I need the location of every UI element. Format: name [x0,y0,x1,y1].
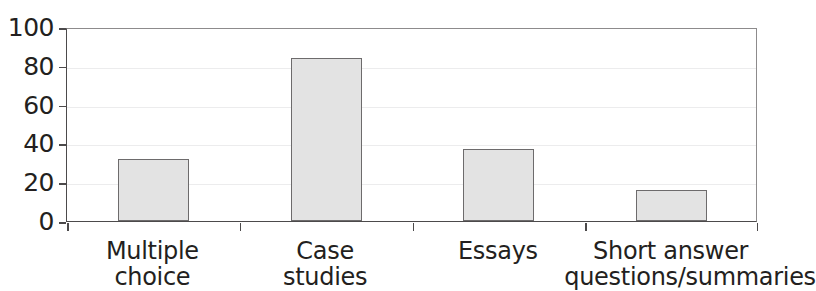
y-tick-mark [59,67,66,69]
x-tick-mark [67,223,69,231]
gridline [67,68,756,69]
y-tick-label: 20 [0,170,54,195]
y-tick-label: 100 [0,15,54,40]
bar[interactable] [636,190,707,221]
y-tick-label: 80 [0,54,54,79]
chart-title [0,0,779,1]
gridline [67,107,756,108]
bar[interactable] [463,149,534,221]
y-tick-mark [59,183,66,185]
y-tick-mark [59,222,66,224]
x-tick-label-line: studies [219,264,432,290]
gridline [67,145,756,146]
bar[interactable] [291,58,362,221]
y-tick-label: 0 [0,209,54,234]
x-tick-mark [240,223,242,231]
x-tick-mark [757,223,759,231]
x-tick-mark [585,223,587,231]
x-tick-label-line: questions/summaries [564,264,777,290]
y-tick-label: 40 [0,131,54,156]
y-tick-label: 60 [0,93,54,118]
bar[interactable] [118,159,189,221]
x-tick-mark [413,223,415,231]
y-tick-mark [59,28,66,30]
plot-area [66,28,757,222]
y-tick-mark [59,106,66,108]
x-tick-label: Short answerquestions/summaries [564,238,777,290]
x-tick-label-line: Short answer [564,238,777,264]
y-tick-mark [59,144,66,146]
